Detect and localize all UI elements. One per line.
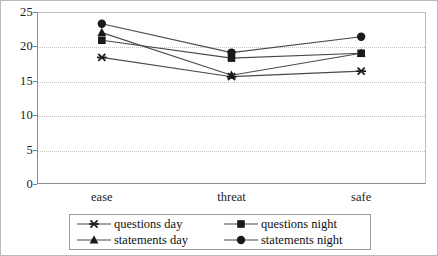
asterisk-marker [97, 54, 107, 61]
x-tick-label: ease [91, 191, 113, 204]
triangle-marker [97, 28, 106, 36]
circle-marker [237, 236, 245, 244]
square-marker [98, 36, 106, 44]
x-tick-label: threat [217, 191, 245, 204]
series-layer [37, 12, 426, 184]
asterisk-marker [356, 68, 366, 75]
triangle-marker [90, 235, 99, 243]
x-axis: easethreatsafe [37, 191, 426, 209]
y-tick-label: 20 [1, 40, 33, 53]
circle-marker [357, 33, 365, 41]
legend-key [224, 234, 258, 246]
legend-entry[interactable]: questions night [220, 218, 367, 231]
legend-key [77, 218, 111, 230]
series-line [102, 24, 361, 53]
legend-key [77, 234, 111, 246]
legend-label: statements night [261, 234, 343, 247]
asterisk-marker [89, 220, 99, 227]
legend-entry[interactable]: statements day [73, 234, 220, 247]
y-tick-label: 10 [1, 109, 33, 122]
circle-marker [98, 19, 106, 27]
legend-key [224, 218, 258, 230]
circle-marker [227, 48, 235, 56]
legend-label: statements day [114, 234, 188, 247]
legend-label: questions day [114, 218, 182, 231]
x-tick-label: safe [351, 191, 371, 204]
y-axis: 0510152025 [1, 1, 33, 201]
legend-entry[interactable]: questions day [73, 218, 220, 231]
chart-figure: 0510152025 easethreatsafe ques [0, 0, 438, 256]
y-tick-label: 5 [1, 143, 33, 156]
chart-legend: questions dayquestions nightstatements d… [69, 214, 371, 250]
square-marker [237, 220, 245, 228]
y-tick-label: 0 [1, 178, 33, 191]
y-tick-label: 15 [1, 75, 33, 88]
y-tick-mark [33, 184, 37, 185]
legend-entry[interactable]: statements night [220, 234, 367, 247]
legend-label: questions night [261, 218, 337, 231]
y-tick-label: 25 [1, 6, 33, 19]
